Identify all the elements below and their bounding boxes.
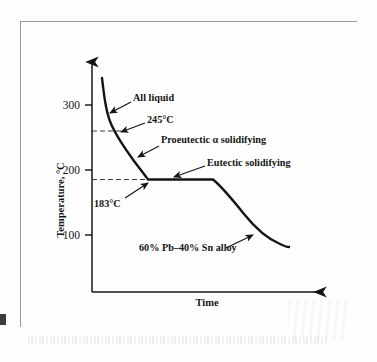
eutectic-temp-label: 183°C [94,198,121,209]
annotation-eutectic-temp: 183°C [94,183,148,209]
cooling-curve-figure: 300 200 100 Temperature, °C Time All liq… [0,0,377,362]
annotation-eutectic: Eutectic solidifying [174,157,290,177]
y-tick-label-300: 300 [63,99,81,111]
eutectic-temp-leader [125,183,148,198]
eutectic-leader [174,166,205,177]
y-axis-ticks [85,105,92,235]
all-liquid-label: All liquid [133,92,174,103]
liquidus-temp-label: 245°C [147,114,174,125]
eutectic-label: Eutectic solidifying [207,157,290,168]
all-liquid-leader [110,102,131,113]
annotation-liquidus-temp: 245°C [121,114,174,132]
annotation-all-liquid: All liquid [110,92,174,113]
y-axis-title: Temperature, °C [55,162,66,237]
proeutectic-label: Proeutectic α solidifying [161,134,266,145]
proeutectic-leader [138,146,159,157]
annotation-alloy: 60% Pb–40% Sn alloy [139,235,253,253]
annotation-proeutectic: Proeutectic α solidifying [138,134,266,157]
alloy-label: 60% Pb–40% Sn alloy [139,242,237,253]
liquidus-leader [121,123,145,132]
x-axis-title: Time [195,297,218,308]
axis-lines [92,62,320,292]
figure-page: 300 200 100 Temperature, °C Time All liq… [0,0,377,362]
